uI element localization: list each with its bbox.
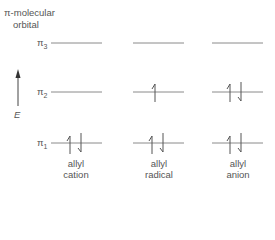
spin-up-icon bbox=[67, 136, 70, 154]
level-lines bbox=[51, 43, 263, 143]
column-label-cation: allylcation bbox=[56, 158, 96, 180]
spin-up-icon bbox=[152, 84, 155, 102]
spin-up-icon bbox=[149, 136, 152, 154]
column-label-radical: allylradical bbox=[137, 158, 181, 180]
spin-up-icon bbox=[227, 136, 230, 154]
energy-arrow-icon bbox=[16, 69, 21, 106]
column-label-anion: allylanion bbox=[216, 158, 260, 180]
spin-up-icon bbox=[227, 84, 230, 102]
